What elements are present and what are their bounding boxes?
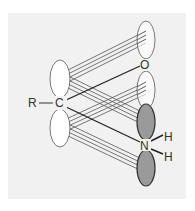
overlap-lines-c-upper-o-upper — [64, 31, 146, 84]
atom-label-r: R — [28, 96, 37, 110]
diagram-root: R C O N H H — [0, 0, 195, 211]
orbital-c-upper — [50, 60, 70, 98]
bond-n-h1 — [151, 135, 163, 141]
overlap-lines-c-lower-n-lower — [64, 122, 144, 172]
orbital-n-upper — [137, 104, 155, 140]
orbital-n-lower — [137, 150, 155, 186]
overlap-lines-c-lower-o-lower — [64, 82, 146, 132]
atom-label-h2: H — [164, 150, 173, 164]
atom-label-n: N — [140, 139, 149, 153]
atom-label-h1: H — [164, 130, 173, 144]
bond-n-h2 — [151, 149, 163, 154]
atom-label-c: C — [55, 96, 64, 110]
bond-c-n — [64, 106, 140, 142]
orbital-o-upper — [137, 21, 155, 59]
orbital-c-lower — [50, 109, 70, 147]
atom-label-o: O — [140, 58, 149, 72]
overlap-lines-c-upper-n-upper — [64, 74, 144, 125]
orbital-diagram: R C O N H H — [0, 0, 195, 211]
